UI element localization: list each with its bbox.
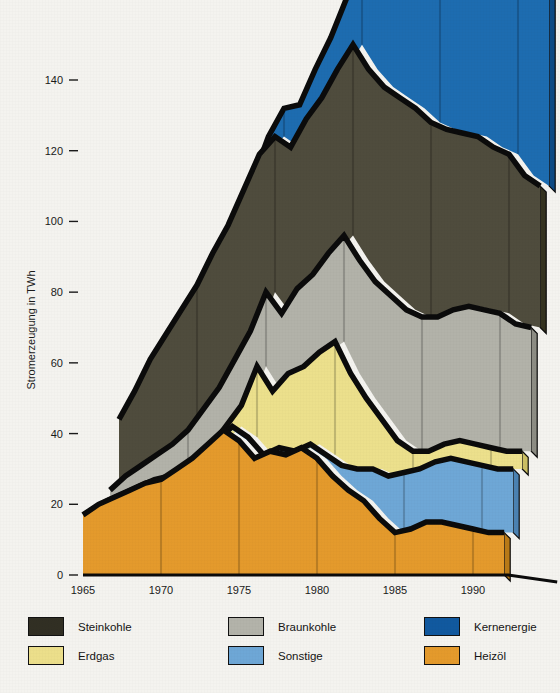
legend-column: BraunkohleSonstige bbox=[228, 614, 336, 672]
x-tick-label: 1970 bbox=[149, 584, 173, 596]
series-side-face bbox=[513, 469, 519, 539]
y-axis-ticks: 020406080100120140 bbox=[45, 74, 78, 581]
legend-swatch-heizoel bbox=[424, 646, 460, 665]
series-ribbons bbox=[83, 0, 555, 581]
y-tick-label: 80 bbox=[51, 286, 63, 298]
x-tick-label: 1965 bbox=[71, 584, 95, 596]
legend-item[interactable]: Steinkohle bbox=[28, 614, 132, 639]
legend-column: KernenergieHeizöl bbox=[424, 614, 537, 672]
stacked-area-chart-svg: 020406080100120140 Stromerzeugung in TWh… bbox=[0, 0, 560, 605]
x-axis-ticks: 196519701975198019851990 bbox=[71, 584, 485, 596]
x-axis-line bbox=[83, 575, 557, 582]
x-tick-label: 1990 bbox=[461, 584, 485, 596]
legend-item-label: Braunkohle bbox=[278, 621, 336, 633]
x-tick-label: 1985 bbox=[383, 584, 407, 596]
legend-swatch-steinkohle bbox=[28, 617, 64, 636]
y-axis-title-text: Stromerzeugung in TWh bbox=[25, 270, 37, 389]
series-side-face bbox=[549, 0, 555, 192]
y-tick-label: 40 bbox=[51, 428, 63, 440]
legend-item[interactable]: Braunkohle bbox=[228, 614, 336, 639]
x-tick-label: 1975 bbox=[227, 584, 251, 596]
legend-item-label: Kernenergie bbox=[474, 621, 537, 633]
y-tick-label: 0 bbox=[57, 569, 63, 581]
legend-item-label: Heizöl bbox=[474, 650, 506, 662]
x-tick-label: 1980 bbox=[305, 584, 329, 596]
legend-swatch-erdgas bbox=[28, 646, 64, 665]
y-tick-label: 140 bbox=[45, 74, 63, 86]
legend-item[interactable]: Erdgas bbox=[28, 643, 132, 668]
y-axis-title: Stromerzeugung in TWh bbox=[25, 270, 37, 389]
x-axis-baseline bbox=[83, 575, 557, 582]
legend-item-label: Erdgas bbox=[78, 650, 114, 662]
legend-item-label: Steinkohle bbox=[78, 621, 132, 633]
legend-item[interactable]: Kernenergie bbox=[424, 614, 537, 639]
legend-column: SteinkohleErdgas bbox=[28, 614, 132, 672]
chart-page: 020406080100120140 Stromerzeugung in TWh… bbox=[0, 0, 560, 693]
series-side-face bbox=[522, 451, 528, 475]
legend-item[interactable]: Sonstige bbox=[228, 643, 336, 668]
legend-swatch-sonstige bbox=[228, 646, 264, 665]
legend-item-label: Sonstige bbox=[278, 650, 323, 662]
y-tick-label: 100 bbox=[45, 215, 63, 227]
y-tick-label: 20 bbox=[51, 498, 63, 510]
plot-area: 020406080100120140 Stromerzeugung in TWh… bbox=[0, 0, 560, 605]
y-tick-label: 120 bbox=[45, 145, 63, 157]
chart-legend: SteinkohleErdgasBraunkohleSonstigeKernen… bbox=[0, 606, 560, 693]
series-side-face bbox=[540, 186, 546, 333]
legend-swatch-braunkohle bbox=[228, 617, 264, 636]
legend-swatch-kernenergie bbox=[424, 617, 460, 636]
series-side-face bbox=[531, 328, 537, 458]
legend-item[interactable]: Heizöl bbox=[424, 643, 537, 668]
y-tick-label: 60 bbox=[51, 357, 63, 369]
